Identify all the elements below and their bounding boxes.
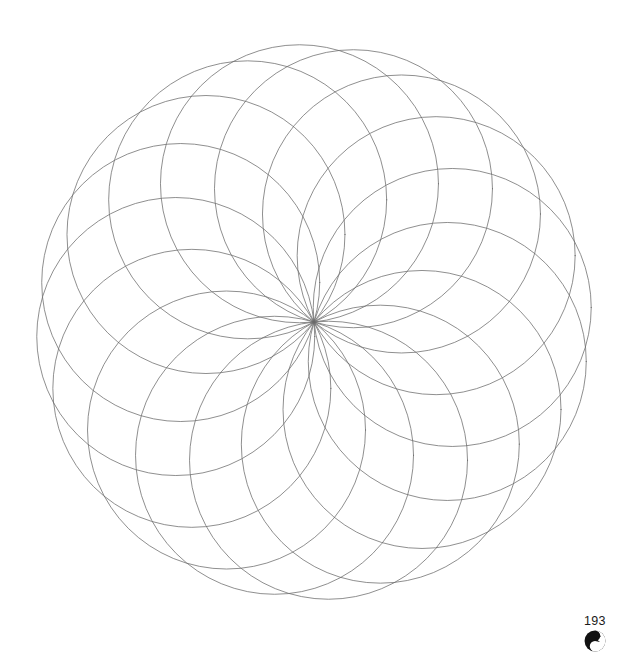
yin-yang-logo-icon (584, 630, 606, 652)
page-number: 193 (584, 615, 606, 628)
artwork-background (0, 0, 633, 620)
coloring-book-page: 193 (0, 0, 633, 655)
page-footer: 193 (565, 602, 625, 652)
spiral-rosette-artwork (0, 0, 633, 620)
